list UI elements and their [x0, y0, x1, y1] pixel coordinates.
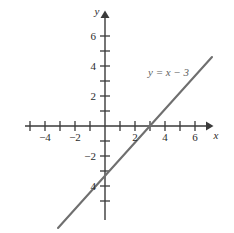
graph-figure: −4 −2 2 4 6 6 4 2 −2 4 x y y = x − 3: [0, 0, 234, 233]
equation-label: y = x − 3: [147, 66, 190, 78]
x-tick-label-neg4: −4: [39, 131, 51, 143]
x-tick-label-neg2: −2: [69, 131, 81, 143]
y-axis-label: y: [94, 5, 100, 17]
y-tick-label-4: 4: [91, 60, 97, 72]
x-axis-arrow-icon: [206, 122, 214, 131]
x-axis-label: x: [213, 129, 219, 141]
x-tick-label-4: 4: [162, 131, 168, 143]
y-tick-label-2: 2: [91, 90, 97, 102]
coordinate-plane: −4 −2 2 4 6 6 4 2 −2 4 x y y = x − 3: [0, 0, 234, 233]
x-tick-label-6: 6: [192, 131, 198, 143]
x-tick-label-2: 2: [132, 131, 138, 143]
y-axis-arrow-icon: [101, 11, 110, 19]
y-tick-label-neg2: −2: [84, 150, 96, 162]
y-tick-label-6: 6: [91, 30, 97, 42]
y-tick-label-neg4: 4: [91, 180, 97, 192]
